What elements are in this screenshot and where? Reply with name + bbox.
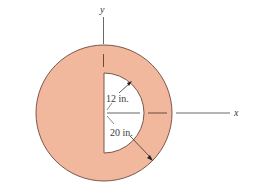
x-axis-label: x [233, 107, 239, 118]
outer-radius-label: 20 in. [110, 127, 133, 138]
y-axis-label: y [99, 4, 105, 15]
inner-radius-label: 12 in. [106, 93, 129, 104]
diagram-canvas: y x 12 in. 20 in. [0, 0, 254, 196]
